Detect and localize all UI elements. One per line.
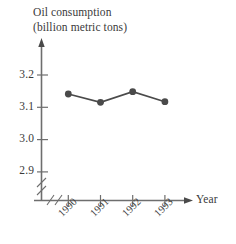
y-tick-label-2-9: 2.9 (4, 164, 34, 176)
data-point-1991 (97, 99, 104, 106)
x-axis-title: Year (196, 193, 218, 205)
chart-plot-area (0, 0, 236, 244)
arrow-right-icon (184, 197, 193, 203)
chart-figure: Oil consumption (billion metric tons) (0, 0, 236, 244)
data-line-series-1 (68, 92, 165, 103)
data-point-1990 (65, 91, 72, 98)
y-tick-label-3-2: 3.2 (4, 68, 34, 80)
data-point-1992 (129, 88, 136, 95)
y-tick-label-3-1: 3.1 (4, 100, 34, 112)
y-tick-label-3-0: 3.0 (4, 132, 34, 144)
y-tick-marks (37, 75, 48, 172)
arrow-up-icon (38, 38, 44, 47)
data-point-1993 (162, 98, 169, 105)
